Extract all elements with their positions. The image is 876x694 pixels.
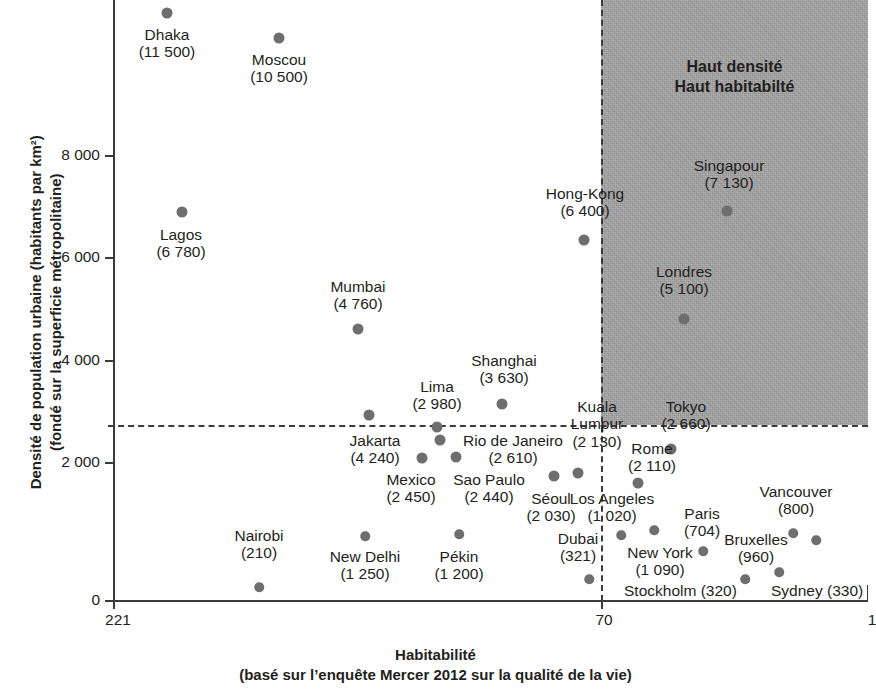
city-density-value: (2 030) (526, 507, 575, 524)
city-name: Sydney (771, 582, 827, 599)
data-point-mexico[interactable] (417, 453, 428, 464)
city-name: Paris (684, 505, 720, 522)
city-density-value: (330) (827, 582, 863, 599)
data-label-bruxelles: Bruxelles(960) (724, 531, 788, 566)
data-label-tokyo: Tokyo(2 660) (661, 398, 710, 433)
city-name: Los Angeles (570, 490, 654, 507)
data-point-paris[interactable] (698, 546, 708, 556)
city-name: Dubai (558, 530, 599, 547)
city-name: Londres (656, 263, 712, 280)
city-density-value: (320) (701, 582, 737, 599)
data-label-rome: Rome(2 110) (628, 440, 676, 475)
city-density-value: (7 130) (694, 174, 765, 191)
city-name: Lagos (156, 226, 205, 243)
city-density-value: (210) (234, 544, 283, 561)
city-density-value: (10 500) (250, 68, 308, 85)
data-point-vancouver[interactable] (788, 528, 798, 538)
data-point-nairobi[interactable] (254, 582, 264, 592)
data-label-singapour: Singapour(7 130) (694, 157, 765, 192)
data-point-s-oul[interactable] (549, 471, 560, 482)
city-name: Pékin (434, 548, 483, 565)
city-density-value: (5 100) (656, 280, 712, 297)
data-label-hong-kong: Hong-Kong(6 400) (546, 185, 624, 220)
city-density-value: (4 240) (350, 449, 401, 466)
data-point-sydney[interactable] (811, 535, 821, 545)
city-density-value: (2 450) (386, 488, 435, 505)
city-name: New Delhi (330, 548, 401, 565)
city-name: Jakarta (350, 432, 401, 449)
data-point-kuala-lumpur[interactable] (573, 468, 584, 479)
data-label-kuala-lumpur: KualaLumpur(2 130) (571, 398, 624, 450)
city-name: Tokyo (661, 398, 710, 415)
data-label-moscou: Moscou(10 500) (250, 51, 308, 86)
x-tick-label-70: 70 (595, 611, 612, 629)
y-tick-label-0: 0 (40, 591, 100, 609)
city-density-value: (1 200) (434, 565, 483, 582)
city-name: Rio de Janeiro (463, 432, 563, 449)
city-name: Moscou (250, 51, 308, 68)
city-name: Bruxelles (724, 531, 788, 548)
data-label-lima: Lima(2 980) (412, 378, 461, 413)
data-point-jakarta[interactable] (364, 410, 375, 421)
city-density-value: (2 130) (571, 433, 624, 450)
data-point-singapour[interactable] (722, 206, 733, 217)
data-label-vancouver: Vancouver(800) (760, 483, 833, 518)
city-density-value: (2 610) (463, 449, 563, 466)
data-point-dhaka[interactable] (162, 8, 173, 19)
city-name: Vancouver (760, 483, 833, 500)
data-point-sao-paulo[interactable] (451, 452, 462, 463)
x-axis-line (113, 600, 868, 602)
data-label-stockholm: Stockholm (320) (624, 582, 737, 599)
city-density-value: (2 660) (661, 415, 710, 432)
city-name: Sao Paulo (453, 471, 525, 488)
data-point-rio-de-janeiro[interactable] (435, 435, 446, 446)
data-point-mumbai[interactable] (353, 324, 364, 335)
y-axis-title-main: Densité de population urbaine (habitants… (27, 135, 44, 489)
city-density-value: (6 400) (546, 202, 624, 219)
city-name: New York (627, 544, 692, 561)
city-name: Séoul (526, 490, 575, 507)
data-label-mexico: Mexico(2 450) (386, 471, 435, 506)
data-point-lagos[interactable] (177, 207, 188, 218)
y-tick-4000 (105, 360, 114, 362)
region-label-line1: Haut densité (686, 58, 782, 75)
data-point-los-angeles[interactable] (649, 525, 659, 535)
data-point-dubai[interactable] (584, 574, 594, 584)
data-point-lima[interactable] (432, 422, 443, 433)
data-point-new-delhi[interactable] (360, 531, 370, 541)
data-point-shanghai[interactable] (497, 399, 508, 410)
data-point-londres[interactable] (679, 314, 690, 325)
data-label-s-oul: Séoul(2 030) (526, 490, 575, 525)
data-label-lagos: Lagos(6 780) (156, 226, 205, 261)
city-density-value: (3 630) (471, 369, 537, 386)
data-label-jakarta: Jakarta(4 240) (350, 432, 401, 467)
city-name: Mumbai (330, 278, 385, 295)
data-point-p-kin[interactable] (454, 529, 464, 539)
city-name: Dhaka (139, 26, 196, 43)
data-point-rome[interactable] (633, 478, 644, 489)
x-tick-221 (113, 600, 115, 609)
y-tick-8000 (105, 155, 114, 157)
city-name: KualaLumpur (571, 398, 624, 433)
data-point-stockholm[interactable] (740, 574, 750, 584)
x-axis-right-cap (867, 585, 869, 601)
x-axis-title-sub: (basé sur l’enquête Mercer 2012 sur la q… (239, 666, 632, 683)
data-label-new-york: New York(1 090) (627, 544, 692, 579)
data-point-new-york[interactable] (616, 530, 626, 540)
city-name: Hong-Kong (546, 185, 624, 202)
x-tick-label-1: 1 (868, 611, 876, 629)
data-point-hong-kong[interactable] (579, 235, 590, 246)
data-label-sao-paulo: Sao Paulo(2 440) (453, 471, 525, 506)
data-point-moscou[interactable] (274, 33, 285, 44)
x-tick-70 (601, 600, 603, 609)
city-density-value: (4 760) (330, 295, 385, 312)
data-label-londres: Londres(5 100) (656, 263, 712, 298)
data-label-rio-de-janeiro: Rio de Janeiro(2 610) (463, 432, 563, 467)
data-label-los-angeles: Los Angeles(1 020) (570, 490, 654, 525)
data-point-bruxelles[interactable] (774, 567, 784, 577)
city-density-value: (800) (760, 500, 833, 517)
y-tick-2000 (105, 462, 114, 464)
city-name: Singapour (694, 157, 765, 174)
city-density-value: (2 440) (453, 488, 525, 505)
